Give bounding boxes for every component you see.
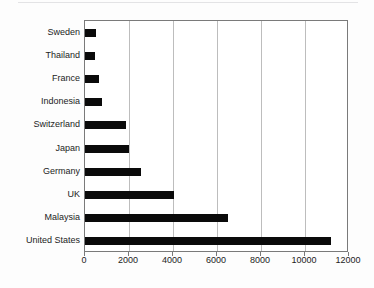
category-label: Sweden [0, 28, 80, 37]
bar [85, 75, 99, 83]
bar [85, 29, 96, 37]
category-label: Indonesia [0, 97, 80, 106]
category-label: Malaysia [0, 213, 80, 222]
bar [85, 145, 129, 153]
bar-series [85, 21, 347, 251]
category-label: UK [0, 190, 80, 199]
value-tick-label: 2000 [118, 256, 138, 265]
value-tick-label: 0 [81, 256, 86, 265]
value-tick-label: 6000 [206, 256, 226, 265]
category-label: Germany [0, 167, 80, 176]
bar [85, 121, 126, 129]
bar [85, 237, 331, 245]
category-label: Switzerland [0, 120, 80, 129]
value-tick-label: 4000 [162, 256, 182, 265]
scan-artifact-line [18, 2, 358, 3]
bar [85, 168, 141, 176]
bar [85, 98, 102, 106]
category-label: France [0, 74, 80, 83]
category-label: Thailand [0, 51, 80, 60]
bar-chart: SwedenThailandFranceIndonesiaSwitzerland… [0, 0, 374, 288]
bar [85, 191, 174, 199]
category-label: United States [0, 236, 80, 245]
value-tick-label: 12000 [335, 256, 360, 265]
category-label: Japan [0, 144, 80, 153]
plot-area [84, 20, 348, 252]
bar [85, 214, 228, 222]
bar [85, 52, 95, 60]
value-tick-label: 8000 [250, 256, 270, 265]
value-tick-label: 10000 [291, 256, 316, 265]
